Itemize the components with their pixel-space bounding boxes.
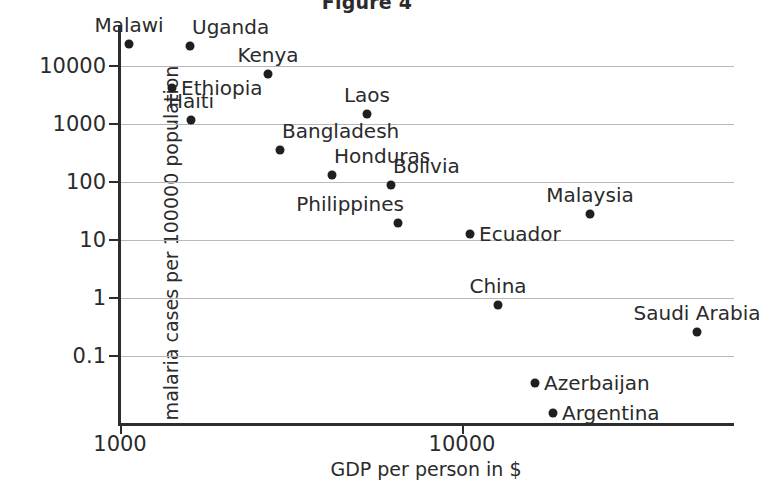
data-point[interactable]	[125, 40, 134, 49]
data-point[interactable]	[186, 42, 195, 51]
data-point-label: Ecuador	[479, 222, 561, 246]
y-axis-tick-label: 10	[79, 228, 106, 252]
data-point-label: Kenya	[237, 43, 298, 67]
y-axis-tick	[109, 355, 121, 357]
data-point[interactable]	[466, 230, 475, 239]
data-point[interactable]	[549, 409, 558, 418]
data-point[interactable]	[363, 110, 372, 119]
chart-title: Figure 4	[0, 0, 734, 13]
data-point[interactable]	[387, 181, 396, 190]
y-axis-tick	[109, 297, 121, 299]
y-axis-tick-label: 1	[93, 286, 106, 310]
data-point-label: Bolivia	[393, 154, 460, 178]
gridline-y	[118, 124, 734, 125]
data-point-label: Philippines	[296, 192, 404, 216]
data-point-label: Laos	[344, 83, 390, 107]
gridline-y	[118, 182, 734, 183]
data-point-label: Argentina	[562, 401, 660, 425]
data-point[interactable]	[693, 328, 702, 337]
data-point[interactable]	[276, 146, 285, 155]
data-point[interactable]	[264, 70, 273, 79]
y-axis-tick	[109, 239, 121, 241]
data-point[interactable]	[328, 171, 337, 180]
y-axis-tick	[109, 123, 121, 125]
y-axis-tick	[109, 65, 121, 67]
data-point[interactable]	[586, 210, 595, 219]
data-point[interactable]	[531, 379, 540, 388]
data-point-label: Bangladesh	[282, 119, 399, 143]
y-axis-tick-label: 0.1	[73, 344, 106, 368]
x-axis-tick-label: 10000	[429, 432, 496, 456]
data-point-label: Uganda	[192, 15, 269, 39]
y-axis-title-container: malaria cases per 100000 population	[0, 0, 34, 485]
x-axis-tick-label: 1000	[93, 432, 146, 456]
data-point-label: China	[469, 274, 526, 298]
y-axis-tick-label: 10000	[39, 54, 106, 78]
gridline-y	[118, 240, 734, 241]
data-point-label: Azerbaijan	[544, 371, 650, 395]
data-point[interactable]	[187, 116, 196, 125]
x-axis-title: GDP per person in $	[118, 458, 734, 480]
y-axis-tick	[109, 181, 121, 183]
gridline-y	[118, 298, 734, 299]
data-point[interactable]	[494, 301, 503, 310]
y-axis-tick-label: 100	[66, 170, 106, 194]
y-axis-tick-label: 1000	[53, 112, 106, 136]
data-point-label: Haiti	[168, 89, 214, 113]
plot-area: 1000010001001010.1100010000MalawiUgandaK…	[118, 26, 734, 424]
gridline-y	[118, 66, 734, 67]
data-point-label: Saudi Arabia	[634, 301, 760, 325]
gridline-y	[118, 356, 734, 357]
data-point[interactable]	[394, 219, 403, 228]
data-point-label: Malaysia	[546, 183, 633, 207]
data-point-label: Malawi	[94, 13, 163, 37]
